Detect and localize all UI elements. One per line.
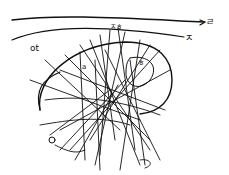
top-arrow-label: ㄹ xyxy=(206,18,214,27)
sketch-canvas: ㄹ ㅈ ot ㅈㅎ a ㅎ xyxy=(0,0,229,175)
second-arrow-label: ㅈ xyxy=(185,34,193,43)
inner-left-label: a xyxy=(82,64,86,71)
left-label: ot xyxy=(30,44,39,53)
top-center-label: ㅈㅎ xyxy=(110,24,122,31)
top-arrow xyxy=(12,17,204,22)
second-arrow xyxy=(12,28,184,40)
inner-right-label: ㅎ xyxy=(138,60,144,67)
